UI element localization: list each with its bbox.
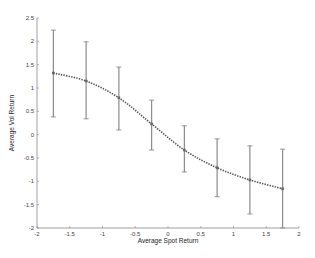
y-tick-label: 1 — [31, 85, 35, 91]
x-tick-label: -2 — [34, 231, 40, 237]
data-point-marker — [216, 167, 219, 170]
y-tick-label: 0.5 — [26, 108, 35, 114]
x-axis-label: Average Spot Return — [138, 237, 199, 245]
y-tick-label: -1.5 — [24, 202, 35, 208]
data-point-marker — [52, 72, 55, 75]
mean-line — [52, 72, 284, 190]
data-point-marker — [249, 179, 252, 182]
y-tick-label: 2 — [31, 38, 35, 44]
data-point-marker — [150, 123, 153, 126]
x-tick-label: -1.5 — [65, 231, 76, 237]
y-axis-label: Average Vol Return — [8, 94, 16, 151]
data-point-marker — [85, 80, 88, 83]
mean-line-path — [53, 73, 282, 189]
x-tick-label: 1 — [232, 231, 236, 237]
y-tick-label: -2 — [29, 225, 35, 231]
data-point-marker — [281, 188, 284, 191]
data-point-marker — [118, 97, 121, 100]
error-bars — [51, 30, 285, 228]
axes — [37, 18, 299, 228]
x-tick-label: -1 — [100, 231, 106, 237]
y-tick-label: -1 — [29, 178, 35, 184]
y-tick-label: 2.5 — [26, 15, 35, 21]
error-bar-chart: -2-1.5-1-0.500.511.52 -2-1.5-1-0.500.511… — [0, 0, 315, 258]
y-tick-label: 1.5 — [26, 62, 35, 68]
x-tick-label: 2 — [297, 231, 301, 237]
data-point-marker — [183, 149, 186, 152]
y-tick-label: -0.5 — [24, 155, 35, 161]
x-tick-label: 1.5 — [262, 231, 271, 237]
y-tick-label: 0 — [31, 132, 35, 138]
